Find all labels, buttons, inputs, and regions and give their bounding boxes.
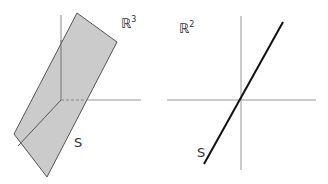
r3-label: ℝ3 [121, 15, 136, 31]
diagram-canvas: ℝ3 S ℝ2 S [0, 0, 328, 184]
subspace-label-right: S [197, 145, 205, 160]
r2-label: ℝ2 [179, 20, 194, 36]
r2-diagram: ℝ2 S [167, 16, 316, 170]
subspace-diagram: ℝ3 S ℝ2 S [0, 0, 328, 184]
plane-s [14, 13, 117, 177]
r3-diagram: ℝ3 S [14, 13, 141, 177]
subspace-label-left: S [74, 135, 82, 150]
subspace-line [204, 22, 283, 164]
